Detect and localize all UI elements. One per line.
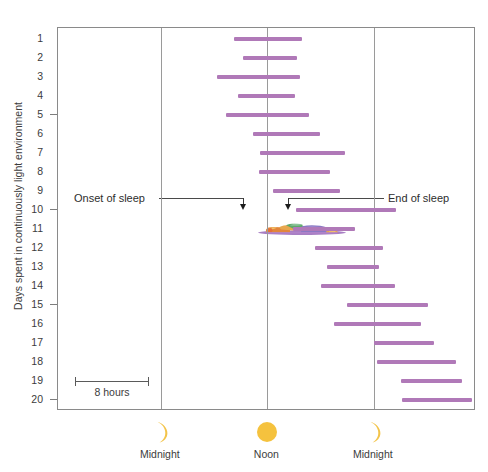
y-tick-label-5: 5 bbox=[37, 108, 43, 120]
scale-bar-cap-right bbox=[148, 377, 149, 386]
x-axis-item-0: Midnight bbox=[120, 417, 200, 460]
sleep-bar-day-13 bbox=[327, 265, 379, 269]
y-tick-label-9: 9 bbox=[37, 184, 43, 196]
y-tick-mark-10 bbox=[50, 209, 57, 210]
sleep-bar-day-8 bbox=[259, 170, 331, 174]
y-tick-label-18: 18 bbox=[31, 355, 43, 367]
sleep-bar-day-5 bbox=[226, 113, 309, 117]
y-tick-label-16: 16 bbox=[31, 317, 43, 329]
y-tick-label-15: 15 bbox=[31, 298, 43, 310]
y-tick-mark-5 bbox=[50, 114, 57, 115]
y-tick-label-13: 13 bbox=[31, 260, 43, 272]
y-tick-label-6: 6 bbox=[37, 127, 43, 139]
sun-icon bbox=[226, 417, 306, 447]
sleep-bar-day-18 bbox=[377, 360, 456, 364]
sleep-bar-day-14 bbox=[321, 284, 396, 288]
y-tick-label-10: 10 bbox=[31, 203, 43, 215]
end-of-sleep-label: End of sleep bbox=[388, 192, 449, 204]
sleep-bar-day-19 bbox=[401, 379, 462, 383]
gridline-midnight-0 bbox=[161, 28, 162, 409]
x-axis-label-2: Midnight bbox=[333, 448, 413, 460]
y-tick-label-14: 14 bbox=[31, 279, 43, 291]
scale-bar-cap-left bbox=[75, 377, 76, 386]
sleep-bar-day-4 bbox=[238, 94, 295, 98]
y-tick-label-17: 17 bbox=[31, 336, 43, 348]
sleep-bar-day-11 bbox=[293, 227, 355, 231]
sleep-bar-day-20 bbox=[402, 398, 472, 402]
sleep-bar-day-15 bbox=[347, 303, 428, 307]
x-axis-item-1: Noon bbox=[226, 417, 306, 460]
onset-of-sleep-leader bbox=[159, 198, 243, 199]
sleep-bar-day-6 bbox=[253, 132, 320, 136]
sleep-bar-day-1 bbox=[234, 37, 302, 41]
onset-of-sleep-arrow bbox=[240, 204, 246, 210]
onset-of-sleep-label: Onset of sleep bbox=[74, 192, 145, 204]
y-tick-label-19: 19 bbox=[31, 374, 43, 386]
sleep-bar-day-3 bbox=[217, 75, 300, 79]
y-tick-label-4: 4 bbox=[37, 89, 43, 101]
y-tick-label-7: 7 bbox=[37, 146, 43, 158]
y-tick-mark-20 bbox=[50, 399, 57, 400]
y-tick-label-1: 1 bbox=[37, 32, 43, 44]
crescent-moon-icon bbox=[120, 417, 200, 447]
scale-bar-label: 8 hours bbox=[75, 386, 149, 398]
crescent-moon-icon bbox=[333, 417, 413, 447]
y-tick-label-11: 11 bbox=[32, 222, 43, 234]
sleep-bar-day-17 bbox=[374, 341, 434, 345]
y-tick-label-12: 12 bbox=[31, 241, 43, 253]
sleep-bar-day-16 bbox=[334, 322, 421, 326]
end-of-sleep-leader bbox=[288, 198, 384, 199]
y-tick-label-2: 2 bbox=[37, 51, 43, 63]
plot-area: Onset of sleep End of sleep bbox=[57, 27, 475, 410]
scale-bar bbox=[75, 381, 149, 382]
x-axis-label-0: Midnight bbox=[120, 448, 200, 460]
sleep-bar-day-2 bbox=[243, 56, 297, 60]
figure-root: Days spent in continuously light environ… bbox=[0, 0, 488, 472]
y-tick-label-3: 3 bbox=[37, 70, 43, 82]
sleep-bar-day-10 bbox=[296, 208, 396, 212]
y-tick-label-20: 20 bbox=[31, 393, 43, 405]
sleep-bar-day-9 bbox=[273, 189, 340, 193]
end-of-sleep-arrow bbox=[285, 204, 291, 210]
gridline-midnight-2 bbox=[374, 28, 375, 409]
y-tick-label-8: 8 bbox=[37, 165, 43, 177]
sleep-bar-day-12 bbox=[315, 246, 382, 250]
sleep-bar-day-7 bbox=[260, 151, 345, 155]
y-axis-title: Days spent in continuously light environ… bbox=[12, 41, 24, 371]
y-tick-mark-15 bbox=[50, 304, 57, 305]
x-axis-label-1: Noon bbox=[226, 448, 306, 460]
x-axis-item-2: Midnight bbox=[333, 417, 413, 460]
gridline-noon-1 bbox=[267, 28, 268, 409]
y-axis: Days spent in continuously light environ… bbox=[0, 0, 57, 472]
